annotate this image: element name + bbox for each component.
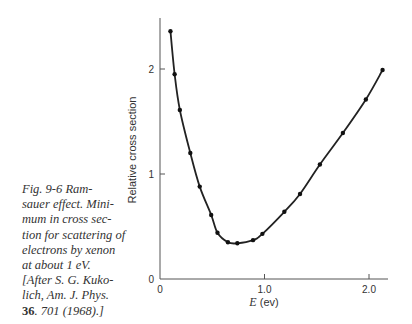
data-point (178, 108, 182, 112)
cross-section-chart: 012 01.02.0 Relative cross section E (ev… (0, 0, 412, 324)
x-tick-label: 2.0 (362, 284, 376, 295)
data-point (235, 241, 239, 245)
data-point (209, 213, 213, 217)
data-point (260, 232, 264, 236)
data-point (215, 231, 219, 235)
data-point (226, 240, 230, 244)
data-point (172, 72, 176, 76)
data-point (251, 238, 255, 242)
y-tick-label: 1 (148, 169, 154, 180)
data-point (380, 68, 384, 72)
x-axis-label: E (ev) (248, 295, 278, 309)
data-point (168, 29, 172, 33)
x-axis-label-unit: (ev) (257, 296, 279, 308)
y-tick-label: 0 (148, 274, 154, 285)
data-points (168, 29, 385, 246)
y-ticks: 012 (148, 64, 165, 285)
x-ticks: 01.02.0 (157, 274, 376, 295)
x-tick-label: 1.0 (258, 284, 272, 295)
axes (160, 18, 388, 279)
data-point (282, 210, 286, 214)
data-point (318, 162, 322, 166)
data-point (198, 184, 202, 188)
data-curve (170, 31, 382, 243)
data-point (188, 151, 192, 155)
y-tick-label: 2 (148, 64, 154, 75)
x-tick-label: 0 (157, 284, 163, 295)
data-point (298, 192, 302, 196)
data-point (364, 97, 368, 101)
y-axis-label: Relative cross section (126, 97, 138, 204)
data-point (341, 131, 345, 135)
